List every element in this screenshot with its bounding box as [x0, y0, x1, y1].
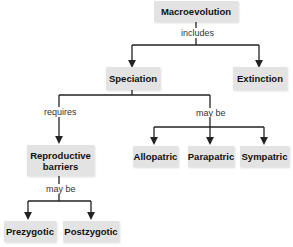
- link-label-requires: requires: [43, 107, 78, 117]
- node-allopatric: Allopatric: [133, 146, 178, 167]
- link-label-may-be-speciation: may be: [195, 108, 227, 118]
- node-parapatric: Parapatric: [188, 146, 234, 167]
- node-speciation: Speciation: [106, 67, 160, 90]
- node-prezygotic: Prezygotic: [4, 221, 56, 242]
- link-label-includes: includes: [180, 28, 215, 38]
- node-extinction: Extinction: [233, 67, 287, 90]
- node-postzygotic: Postzygotic: [63, 221, 119, 242]
- connector-lines: [0, 0, 293, 247]
- node-sympatric: Sympatric: [240, 146, 289, 167]
- node-reproductive-barriers: Reproductive barriers: [27, 145, 94, 176]
- node-macroevolution: Macroevolution: [154, 1, 238, 22]
- link-label-may-be-barriers: may be: [45, 184, 77, 194]
